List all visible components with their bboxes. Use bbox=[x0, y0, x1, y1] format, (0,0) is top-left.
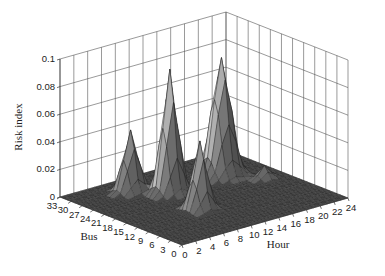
grid-line bbox=[226, 95, 348, 143]
x-axis-label: Hour bbox=[267, 238, 290, 250]
hour-tick-label: 16 bbox=[290, 218, 301, 229]
hour-tick bbox=[293, 214, 294, 217]
bus-tick-label: 15 bbox=[113, 226, 124, 237]
bus-tick bbox=[101, 214, 104, 216]
hour-tick bbox=[224, 233, 225, 236]
bus-tick-label: 18 bbox=[102, 222, 113, 233]
hour-tick bbox=[348, 198, 349, 201]
z-tick bbox=[57, 169, 60, 170]
bus-tick-label: 3 bbox=[160, 244, 165, 255]
grid-line bbox=[226, 67, 348, 115]
grid-line bbox=[226, 12, 348, 60]
grid-line bbox=[226, 40, 348, 88]
hour-tick-label: 20 bbox=[318, 210, 329, 221]
hour-tick-label: 14 bbox=[277, 222, 288, 233]
bus-tick-label: 33 bbox=[47, 200, 58, 211]
z-tick-label: 0.04 bbox=[37, 136, 56, 147]
hour-tick-label: 22 bbox=[332, 206, 343, 217]
hour-tick-label: 8 bbox=[238, 233, 243, 244]
hour-tick bbox=[251, 225, 252, 228]
z-tick bbox=[57, 87, 60, 88]
bus-tick bbox=[112, 219, 115, 221]
bus-tick bbox=[179, 245, 182, 247]
bus-tick bbox=[68, 201, 71, 203]
hour-tick bbox=[320, 206, 321, 209]
y-axis-label: Bus bbox=[80, 230, 97, 242]
hour-tick-label: 10 bbox=[249, 229, 260, 240]
hour-tick-label: 2 bbox=[196, 245, 201, 256]
risk-index-3d-surface-chart: 00.020.040.060.080.103691215182124273033… bbox=[0, 0, 385, 276]
bus-tick bbox=[124, 223, 127, 225]
hour-tick bbox=[334, 202, 335, 205]
bus-tick-label: 12 bbox=[124, 231, 135, 242]
bus-tick bbox=[168, 241, 171, 243]
hour-tick bbox=[210, 237, 211, 240]
z-tick-label: 0.06 bbox=[37, 108, 56, 119]
bus-tick bbox=[157, 236, 160, 238]
z-tick-label: 0.08 bbox=[37, 81, 56, 92]
hour-tick bbox=[237, 229, 238, 232]
bus-tick bbox=[146, 232, 149, 234]
bus-tick bbox=[135, 228, 138, 230]
hour-tick bbox=[307, 210, 308, 213]
hour-tick-label: 24 bbox=[346, 202, 357, 213]
bus-tick bbox=[90, 210, 93, 212]
z-tick bbox=[57, 59, 60, 60]
hour-tick-label: 18 bbox=[304, 214, 315, 225]
hour-tick-label: 4 bbox=[210, 241, 215, 252]
bus-tick bbox=[79, 206, 82, 208]
bus-tick-label: 6 bbox=[149, 239, 154, 250]
z-tick-label: 0.1 bbox=[42, 53, 55, 64]
bus-tick-label: 27 bbox=[69, 209, 80, 220]
bus-tick-label: 30 bbox=[58, 204, 69, 215]
hour-tick-label: 0 bbox=[182, 249, 187, 260]
z-tick-label: 0.02 bbox=[37, 163, 56, 174]
z-tick bbox=[57, 142, 60, 143]
z-axis-label: Risk index bbox=[12, 103, 24, 151]
hour-tick-label: 6 bbox=[224, 237, 229, 248]
bus-tick-label: 0 bbox=[171, 248, 176, 259]
hour-tick-label: 12 bbox=[263, 226, 274, 237]
hour-tick bbox=[265, 222, 266, 225]
hour-tick bbox=[279, 218, 280, 221]
bus-tick-label: 9 bbox=[138, 235, 143, 246]
hour-tick bbox=[182, 245, 183, 248]
hour-tick bbox=[196, 241, 197, 244]
bus-tick-label: 21 bbox=[91, 217, 102, 228]
bus-tick-label: 24 bbox=[80, 213, 91, 224]
z-tick bbox=[57, 114, 60, 115]
